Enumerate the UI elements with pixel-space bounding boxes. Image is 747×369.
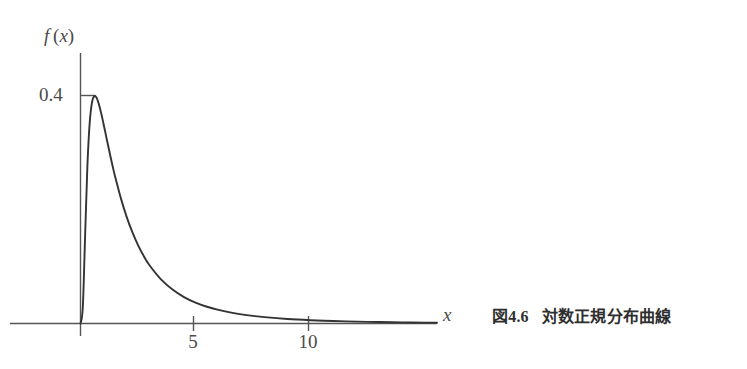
- x-tick-label: 10: [299, 332, 318, 351]
- lognormal-curve: [81, 96, 438, 324]
- y-axis-label-f: f: [44, 25, 49, 46]
- y-axis-label: f (x): [44, 26, 74, 45]
- y-axis-label-x: x: [59, 25, 67, 46]
- figure-lognormal-distribution-curve: f (x) x 0.4 5 10 図4.6対数正規分布曲線: [0, 0, 747, 369]
- x-axis-label: x: [443, 305, 451, 324]
- x-tick-label: 5: [188, 332, 198, 351]
- figure-caption-prefix: 図: [492, 308, 508, 325]
- y-tick-label: 0.4: [39, 85, 63, 104]
- figure-caption-text: 対数正規分布曲線: [542, 308, 672, 325]
- figure-caption-number: 4.6: [508, 308, 529, 325]
- y-axis-label-paren-close: ): [68, 25, 74, 46]
- figure-caption: 図4.6対数正規分布曲線: [492, 303, 671, 327]
